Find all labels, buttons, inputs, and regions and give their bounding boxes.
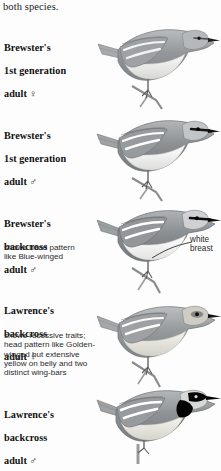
figure-note-brewsters-backcross-male: shows head pattern like Blue-winged [4,243,100,262]
figure-name-line3: adult ♂ [4,455,37,466]
bird-illustration-lawrences-backcross-male [96,386,221,471]
callout-white-breast: white breast [190,235,213,254]
figure-name-line1: Brewster's [4,42,51,53]
note-line2: like Blue-winged [4,252,63,261]
carryover-text: both species. [3,1,59,13]
figure-name-line1: Lawrence's [4,305,54,316]
note-line3: winged but extensive [4,350,80,359]
figure-label-brewsters-1st-generation-female: Brewster's 1st generation adult ♀ [4,31,66,99]
callout-line2: breast [190,244,213,253]
note-line1: shows head pattern [4,243,75,252]
note-line1: shows recessive traits; [4,331,85,340]
note-line2: head pattern like Golden- [4,340,95,349]
figure-name-line2: 1st generation [4,65,66,76]
figure-name-line1: Brewster's [4,218,51,229]
white-breast-leader-line [152,238,194,260]
figure-name-line2: 1st generation [4,153,66,164]
figure-name-line3: adult ♀ [4,88,37,99]
figure-name-line3: adult ♂ [4,264,37,275]
figure-label-lawrences-backcross-male: Lawrence's backcross adult ♂ [4,398,54,466]
figure-note-lawrences-backcross-female: shows recessive traits; head pattern lik… [4,331,100,377]
field-guide-plate: both species. [0,0,221,471]
bird-illustration-brewsters-1st-generation-female [96,14,221,110]
callout-line1: white [190,235,209,244]
bird-illustration-lawrences-backcross-female [96,292,221,388]
figure-label-brewsters-1st-generation-male: Brewster's 1st generation adult ♂ [4,119,66,187]
figure-name-line3: adult ♂ [4,176,37,187]
figure-name-line1: Brewster's [4,130,51,141]
note-line5: distinct wing-bars [4,368,67,377]
figure-name-line1: Lawrence's [4,409,54,420]
note-line4: yellow on belly and two [4,359,87,368]
bird-illustration-brewsters-1st-generation-male [96,106,221,202]
figure-label-brewsters-backcross-male: Brewster's backcross adult ♂ [4,207,51,275]
figure-name-line2: backcross [4,432,47,443]
